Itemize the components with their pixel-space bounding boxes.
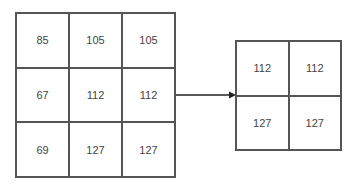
arrow-right-icon [176,90,236,100]
matrix-cell: 127 [236,96,289,151]
matrix-cell: 112 [69,68,122,123]
matrix-cell: 112 [122,68,175,123]
matrix-cell: 105 [69,13,122,68]
input-matrix: 85 105 105 67 112 112 69 127 127 [15,12,176,178]
matrix-cell: 67 [16,68,69,123]
matrix-cell: 85 [16,13,69,68]
matrix-cell: 112 [289,41,342,96]
matrix-cell: 105 [122,13,175,68]
matrix-cell: 127 [69,122,122,177]
matrix-cell: 127 [289,96,342,151]
matrix-cell: 69 [16,122,69,177]
matrix-cell: 127 [122,122,175,177]
output-matrix: 112 112 127 127 [235,40,342,151]
matrix-cell: 112 [236,41,289,96]
